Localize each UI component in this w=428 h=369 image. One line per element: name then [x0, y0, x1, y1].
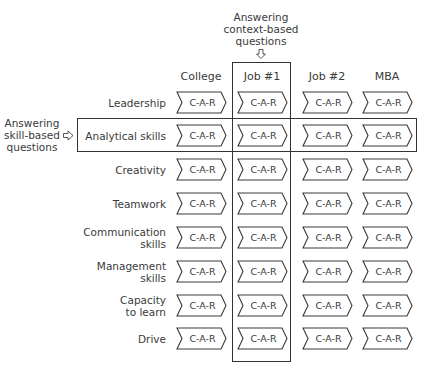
car-chevron-cell: C-A-R	[362, 226, 413, 249]
car-chevron-cell: C-A-R	[302, 192, 353, 215]
car-chevron-cell: C-A-R	[176, 226, 227, 249]
car-label: C-A-R	[243, 294, 284, 317]
car-chevron-cell: C-A-R	[237, 260, 288, 283]
car-chevron-cell: C-A-R	[302, 91, 353, 114]
car-label: C-A-R	[368, 91, 409, 114]
car-label: C-A-R	[368, 226, 409, 249]
annotation-line: skill-based	[2, 129, 62, 141]
row-label-line: Drive	[138, 333, 166, 345]
car-chevron-cell: C-A-R	[237, 91, 288, 114]
car-chevron-cell: C-A-R	[362, 124, 413, 147]
car-chevron-cell: C-A-R	[176, 192, 227, 215]
car-chevron-cell: C-A-R	[362, 158, 413, 181]
row-label-line: Communication	[83, 226, 166, 238]
row-label-line: skills	[97, 272, 166, 284]
car-chevron-cell: C-A-R	[302, 260, 353, 283]
row-label-line: Teamwork	[113, 198, 166, 210]
car-label: C-A-R	[368, 158, 409, 181]
row-label: Managementskills	[97, 260, 166, 284]
car-chevron-cell: C-A-R	[237, 192, 288, 215]
row-label-line: skills	[83, 238, 166, 250]
column-header-mba: MBA	[357, 70, 417, 83]
car-label: C-A-R	[368, 260, 409, 283]
skill-based-annotation: Answering skill-based questions	[2, 117, 62, 153]
car-label: C-A-R	[182, 91, 223, 114]
car-label: C-A-R	[308, 226, 349, 249]
car-chevron-cell: C-A-R	[237, 124, 288, 147]
car-chevron-cell: C-A-R	[362, 91, 413, 114]
car-label: C-A-R	[182, 327, 223, 350]
car-label: C-A-R	[368, 124, 409, 147]
car-label: C-A-R	[243, 327, 284, 350]
right-arrow-icon	[63, 130, 74, 141]
car-chevron-cell: C-A-R	[362, 294, 413, 317]
car-label: C-A-R	[243, 226, 284, 249]
car-label: C-A-R	[368, 192, 409, 215]
car-chevron-cell: C-A-R	[302, 226, 353, 249]
column-header-job2: Job #2	[297, 70, 357, 83]
row-label-line: to learn	[120, 306, 166, 318]
annotation-line: questions	[211, 35, 311, 47]
row-label: Drive	[138, 333, 166, 345]
car-label: C-A-R	[308, 192, 349, 215]
row-label: Communicationskills	[83, 226, 166, 250]
car-label: C-A-R	[308, 327, 349, 350]
car-chevron-cell: C-A-R	[237, 327, 288, 350]
row-label-line: Leadership	[108, 97, 166, 109]
down-arrow-icon	[255, 49, 267, 59]
car-label: C-A-R	[308, 294, 349, 317]
car-label: C-A-R	[182, 192, 223, 215]
car-chevron-cell: C-A-R	[302, 124, 353, 147]
annotation-line: Answering	[2, 117, 62, 129]
car-label: C-A-R	[308, 91, 349, 114]
car-label: C-A-R	[182, 124, 223, 147]
car-label: C-A-R	[308, 124, 349, 147]
car-chevron-cell: C-A-R	[176, 91, 227, 114]
row-label: Leadership	[108, 97, 166, 109]
car-label: C-A-R	[182, 294, 223, 317]
car-chevron-cell: C-A-R	[302, 294, 353, 317]
annotation-line: questions	[2, 141, 62, 153]
car-chevron-cell: C-A-R	[237, 294, 288, 317]
car-chevron-cell: C-A-R	[237, 226, 288, 249]
row-label-line: Capacity	[120, 294, 166, 306]
row-label-line: Management	[97, 260, 166, 272]
car-chevron-cell: C-A-R	[176, 124, 227, 147]
car-chevron-cell: C-A-R	[302, 158, 353, 181]
car-label: C-A-R	[368, 294, 409, 317]
car-chevron-cell: C-A-R	[362, 327, 413, 350]
car-label: C-A-R	[243, 192, 284, 215]
car-chevron-cell: C-A-R	[362, 192, 413, 215]
car-chevron-cell: C-A-R	[302, 327, 353, 350]
car-label: C-A-R	[368, 327, 409, 350]
row-label: Teamwork	[113, 198, 166, 210]
row-label: Analytical skills	[85, 130, 166, 142]
car-chevron-cell: C-A-R	[176, 327, 227, 350]
car-label: C-A-R	[243, 91, 284, 114]
car-label: C-A-R	[182, 158, 223, 181]
car-label: C-A-R	[243, 260, 284, 283]
car-label: C-A-R	[243, 124, 284, 147]
row-label-line: Creativity	[115, 164, 166, 176]
car-label: C-A-R	[243, 158, 284, 181]
row-label: Capacityto learn	[120, 294, 166, 318]
annotation-line: context-based	[211, 23, 311, 35]
car-label: C-A-R	[308, 260, 349, 283]
row-label: Creativity	[115, 164, 166, 176]
car-label: C-A-R	[182, 226, 223, 249]
column-header-college: College	[171, 70, 231, 83]
row-label-line: Analytical skills	[85, 130, 166, 142]
car-chevron-cell: C-A-R	[237, 158, 288, 181]
car-chevron-cell: C-A-R	[176, 158, 227, 181]
car-chevron-cell: C-A-R	[176, 260, 227, 283]
car-label: C-A-R	[182, 260, 223, 283]
column-header-job1: Job #1	[232, 70, 292, 83]
car-chevron-cell: C-A-R	[176, 294, 227, 317]
context-based-annotation: Answering context-based questions	[211, 11, 311, 47]
annotation-line: Answering	[211, 11, 311, 23]
car-label: C-A-R	[308, 158, 349, 181]
car-chevron-cell: C-A-R	[362, 260, 413, 283]
